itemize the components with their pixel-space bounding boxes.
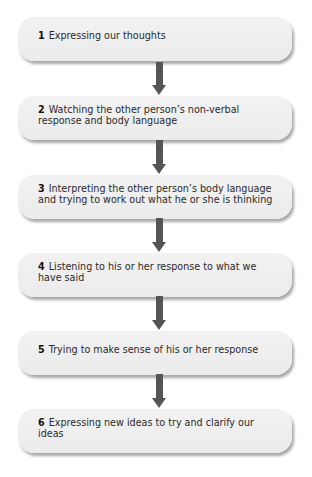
down-arrow-icon <box>152 374 167 408</box>
step-number: 5 <box>38 344 45 355</box>
step-label: Trying to make sense of his or her respo… <box>49 344 258 355</box>
step-label: Expressing our thoughts <box>49 30 166 41</box>
step-label: Listening to his or her response to what… <box>38 261 256 284</box>
step-text: 4Listening to his or her response to wha… <box>38 261 282 284</box>
down-arrow-icon <box>152 140 167 174</box>
step-text: 1Expressing our thoughts <box>38 30 166 42</box>
step-text: 2Watching the other person’s non-verbal … <box>38 104 282 127</box>
step-label: Watching the other person’s non-verbal r… <box>38 104 239 127</box>
step-text: 3Interpreting the other person’s body la… <box>38 183 282 206</box>
step-box-5: 5Trying to make sense of his or her resp… <box>18 331 292 375</box>
step-number: 4 <box>38 261 45 272</box>
step-text: 5Trying to make sense of his or her resp… <box>38 344 258 356</box>
step-label: Interpreting the other person’s body lan… <box>38 183 272 206</box>
step-text: 6Expressing new ideas to try and clarify… <box>38 417 282 440</box>
step-number: 2 <box>38 104 45 115</box>
step-box-4: 4Listening to his or her response to wha… <box>18 253 292 297</box>
down-arrow-icon <box>152 62 167 95</box>
step-box-1: 1Expressing our thoughts <box>18 17 292 61</box>
step-box-3: 3Interpreting the other person’s body la… <box>18 175 292 219</box>
step-label: Expressing new ideas to try and clarify … <box>38 417 254 440</box>
step-box-6: 6Expressing new ideas to try and clarify… <box>18 409 292 453</box>
step-number: 6 <box>38 417 45 428</box>
down-arrow-icon <box>152 218 167 252</box>
step-box-2: 2Watching the other person’s non-verbal … <box>18 96 292 140</box>
step-number: 3 <box>38 183 45 194</box>
step-number: 1 <box>38 30 45 41</box>
down-arrow-icon <box>152 296 167 330</box>
